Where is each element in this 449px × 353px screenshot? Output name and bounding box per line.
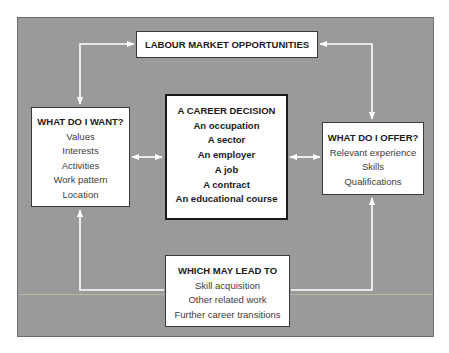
which-may-lead-to-title: WHICH MAY LEAD TO — [166, 264, 289, 279]
connector-lead-to-offer — [291, 198, 372, 290]
want-item: Interests — [32, 144, 129, 159]
connector-labour-to-want — [80, 44, 134, 104]
what-do-i-want-box: WHAT DO I WANT? Values Interests Activit… — [31, 107, 130, 207]
lead-item: Other related work — [166, 293, 289, 308]
decision-item: A sector — [167, 133, 286, 148]
labour-market-box: LABOUR MARKET OPPORTUNITIES — [136, 31, 318, 58]
lead-item: Skill acquisition — [166, 279, 289, 294]
decision-item: An educational course — [167, 192, 286, 207]
offer-item: Skills — [323, 160, 423, 175]
career-decision-title: A CAREER DECISION — [167, 104, 286, 119]
career-decision-diagram: LABOUR MARKET OPPORTUNITIES WHAT DO I WA… — [0, 0, 449, 353]
decision-item: A job — [167, 163, 286, 178]
lead-item: Further career transitions — [166, 308, 289, 323]
connector-lead-to-want — [80, 210, 164, 290]
offer-item: Relevant experience — [323, 146, 423, 161]
which-may-lead-to-box: WHICH MAY LEAD TO Skill acquisition Othe… — [165, 255, 290, 327]
connector-labour-to-offer — [320, 44, 372, 119]
want-item: Work pattern — [32, 173, 129, 188]
want-item: Location — [32, 188, 129, 203]
career-decision-box: A CAREER DECISION An occupation A sector… — [165, 94, 288, 220]
decision-item: An employer — [167, 148, 286, 163]
what-do-i-offer-title: WHAT DO I OFFER? — [323, 131, 423, 146]
offer-item: Qualifications — [323, 175, 423, 190]
what-do-i-offer-box: WHAT DO I OFFER? Relevant experience Ski… — [322, 122, 424, 195]
want-item: Activities — [32, 159, 129, 174]
labour-market-title: LABOUR MARKET OPPORTUNITIES — [137, 32, 317, 57]
what-do-i-want-title: WHAT DO I WANT? — [32, 115, 129, 130]
decision-item: An occupation — [167, 119, 286, 134]
want-item: Values — [32, 130, 129, 145]
decision-item: A contract — [167, 178, 286, 193]
